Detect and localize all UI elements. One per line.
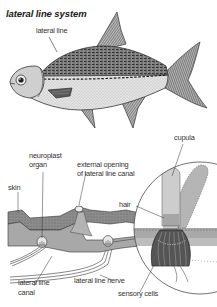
dorsal-fin bbox=[96, 12, 126, 48]
sensory-pointer bbox=[140, 265, 154, 292]
label-hair: hair bbox=[119, 201, 131, 209]
fish-body-upper bbox=[42, 46, 168, 76]
pelvic-fin bbox=[80, 108, 95, 128]
sensory-cell-bulb bbox=[151, 230, 190, 266]
tail-fin bbox=[165, 42, 207, 108]
fish-head bbox=[10, 66, 44, 98]
label-lateral-line-nerve: lateral line nerve bbox=[74, 277, 125, 285]
label-canal-line2: canal bbox=[18, 289, 35, 297]
label-canal-line1: lateral line bbox=[18, 279, 49, 287]
label-sensory-cells: sensory cells bbox=[118, 290, 158, 298]
lateral-line-pointer bbox=[49, 37, 57, 52]
diagram-title: lateral line system bbox=[6, 8, 86, 19]
label-skin: skin bbox=[8, 184, 20, 192]
label-cupula: cupula bbox=[174, 134, 195, 142]
external-opening bbox=[75, 206, 83, 212]
nerve-fibers-left bbox=[10, 245, 46, 266]
label-lateral-line: lateral line bbox=[36, 27, 67, 35]
neuromast-right bbox=[103, 236, 113, 247]
cupula bbox=[162, 168, 180, 227]
neuromast-left bbox=[37, 237, 47, 248]
label-opening-line2: of lateral line canal bbox=[77, 170, 134, 178]
label-neuroplast-line2: organ bbox=[29, 161, 47, 169]
